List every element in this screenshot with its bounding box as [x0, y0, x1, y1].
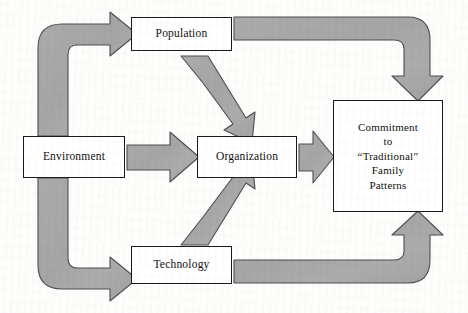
node-organization-label: Organization [216, 151, 278, 163]
node-commitment[interactable]: Commitment to “Traditional” Family Patte… [333, 100, 443, 212]
arrow-environment-to-organization [127, 132, 199, 182]
arrow-population-to-commitment [234, 17, 443, 101]
arrow-population-to-organization [181, 56, 255, 143]
node-organization[interactable]: Organization [197, 136, 297, 178]
arrow-environment-to-population [38, 12, 137, 136]
diagram-canvas: Population Environment Organization Tech… [0, 0, 468, 313]
node-environment[interactable]: Environment [23, 136, 125, 178]
arrow-organization-to-commitment [299, 131, 334, 183]
arrow-environment-to-technology [38, 178, 137, 301]
node-population-label: Population [156, 28, 208, 40]
node-population[interactable]: Population [131, 17, 232, 51]
node-technology[interactable]: Technology [131, 246, 232, 284]
node-technology-label: Technology [153, 259, 209, 271]
node-environment-label: Environment [43, 151, 105, 163]
arrow-technology-to-commitment [234, 211, 443, 283]
node-commitment-label: Commitment to “Traditional” Family Patte… [358, 120, 419, 193]
